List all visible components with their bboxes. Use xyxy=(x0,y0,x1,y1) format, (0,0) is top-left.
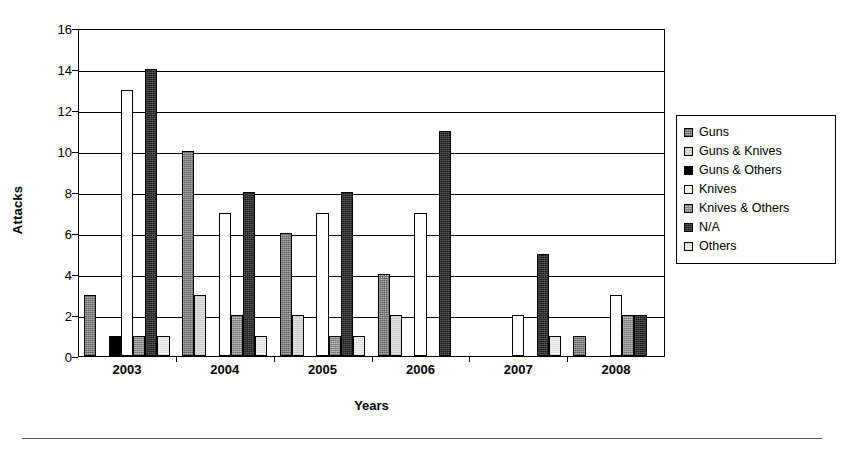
y-tick-label: 16 xyxy=(42,23,72,36)
legend-item-knives[interactable]: Knives xyxy=(684,180,829,199)
x-tickmark xyxy=(274,357,275,362)
legend-item-label: Guns & Knives xyxy=(699,145,782,158)
y-tick-label: 4 xyxy=(42,269,72,282)
legend-item-label: Guns xyxy=(699,126,729,139)
legend-swatch-icon xyxy=(684,147,693,156)
y-tickmark xyxy=(72,111,78,112)
x-tickmark xyxy=(372,357,373,362)
x-tick-label-2006: 2006 xyxy=(406,362,435,377)
legend-swatch-icon xyxy=(684,242,693,251)
x-tick-label-2004: 2004 xyxy=(210,362,239,377)
y-axis-tick-labels: 0246810121416 xyxy=(40,0,72,449)
legend-swatch-icon xyxy=(684,204,693,213)
x-axis-tick-labels: 200320042005200620072008 xyxy=(78,362,665,386)
x-tick-label-2007: 2007 xyxy=(504,362,533,377)
bar-chart-figure: Attacks 0246810121416 200320042005200620… xyxy=(0,0,844,449)
y-tickmark xyxy=(72,193,78,194)
x-axis-title: Years xyxy=(78,398,665,413)
y-tickmark xyxy=(72,316,78,317)
y-tickmark xyxy=(72,234,78,235)
legend-swatch-icon xyxy=(684,128,693,137)
y-tick-label: 8 xyxy=(42,187,72,200)
y-tickmark xyxy=(72,357,78,358)
x-tick-label-2003: 2003 xyxy=(112,362,141,377)
legend-item-label: Knives & Others xyxy=(699,202,789,215)
legend-item-label: N/A xyxy=(699,221,720,234)
legend-item-others[interactable]: Others xyxy=(684,237,829,256)
legend-item-guns-and-others[interactable]: Guns & Others xyxy=(684,161,829,180)
y-tickmark xyxy=(72,70,78,71)
legend-swatch-icon xyxy=(684,223,693,232)
y-tickmark xyxy=(72,29,78,30)
legend-item-label: Others xyxy=(699,240,737,253)
y-axis-tickmarks xyxy=(78,29,665,357)
y-tickmark xyxy=(72,152,78,153)
bottom-divider xyxy=(22,438,822,439)
legend-item-label: Knives xyxy=(699,183,737,196)
legend-item-label: Guns & Others xyxy=(699,164,782,177)
y-tick-label: 0 xyxy=(42,351,72,364)
x-tickmark xyxy=(567,357,568,362)
legend-item-n-a[interactable]: N/A xyxy=(684,218,829,237)
legend-item-guns-and-knives[interactable]: Guns & Knives xyxy=(684,142,829,161)
y-tickmark xyxy=(72,275,78,276)
legend-item-guns[interactable]: Guns xyxy=(684,123,829,142)
y-axis-title-text: Attacks xyxy=(10,150,25,270)
x-tick-label-2008: 2008 xyxy=(602,362,631,377)
legend-item-knives-and-others[interactable]: Knives & Others xyxy=(684,199,829,218)
y-axis-title: Attacks xyxy=(10,30,25,150)
y-tick-label: 2 xyxy=(42,310,72,323)
x-tick-label-2005: 2005 xyxy=(308,362,337,377)
x-tickmark xyxy=(176,357,177,362)
x-tickmark xyxy=(469,357,470,362)
y-tick-label: 6 xyxy=(42,228,72,241)
y-tick-label: 10 xyxy=(42,146,72,159)
legend-swatch-icon xyxy=(684,185,693,194)
y-tick-label: 14 xyxy=(42,64,72,77)
legend-swatch-icon xyxy=(684,166,693,175)
legend: GunsGuns & KnivesGuns & OthersKnivesKniv… xyxy=(676,115,836,264)
y-tick-label: 12 xyxy=(42,105,72,118)
